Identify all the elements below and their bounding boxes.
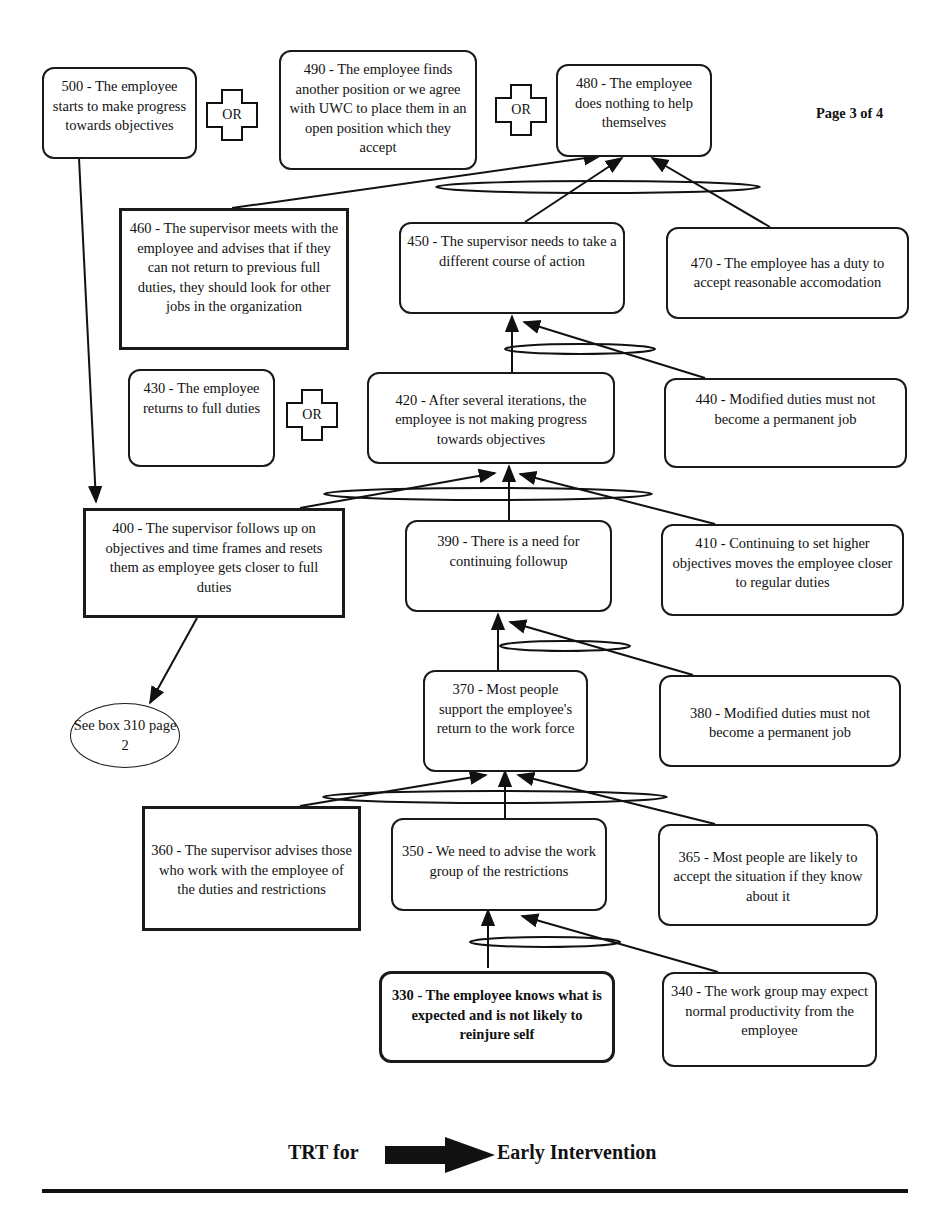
node-440: 440 - Modified duties must not become a …	[664, 378, 907, 468]
node-500: 500 - The employee starts to make progre…	[42, 67, 197, 159]
footer-divider	[42, 1189, 908, 1193]
node-470: 470 - The employee has a duty to accept …	[666, 227, 909, 319]
or-label: OR	[495, 84, 547, 136]
node-480: 480 - The employee does nothing to help …	[556, 64, 712, 157]
node-370: 370 - Most people support the employee's…	[423, 670, 588, 772]
offpage-reference-310[interactable]: See box 310 page 2	[70, 703, 180, 768]
right-arrow-icon	[385, 1137, 497, 1173]
node-365: 365 - Most people are likely to accept t…	[658, 824, 878, 926]
node-340: 340 - The work group may expect normal p…	[662, 972, 877, 1067]
node-430: 430 - The employee returns to full dutie…	[128, 369, 275, 467]
or-label: OR	[206, 89, 258, 141]
node-380: 380 - Modified duties must not become a …	[659, 675, 901, 767]
or-connector-1: OR	[206, 89, 258, 141]
or-connector-3: OR	[286, 389, 338, 441]
node-490: 490 - The employee finds another positio…	[279, 50, 477, 170]
node-420: 420 - After several iterations, the empl…	[367, 372, 615, 464]
node-400: 400 - The supervisor follows up on objec…	[83, 508, 345, 618]
or-connector-2: OR	[495, 84, 547, 136]
node-410: 410 - Continuing to set higher objective…	[661, 524, 904, 616]
node-330: 330 - The employee knows what is expecte…	[379, 971, 615, 1063]
node-350: 350 - We need to advise the work group o…	[391, 818, 607, 911]
node-390: 390 - There is a need for continuing fol…	[405, 520, 612, 612]
node-360: 360 - The supervisor advises those who w…	[142, 806, 361, 931]
or-label: OR	[286, 389, 338, 441]
footer-left-text: TRT for	[288, 1141, 359, 1164]
trt-diagram: Page 3 of 4 500 - The employee starts to…	[0, 0, 943, 1225]
node-460: 460 - The supervisor meets with the empl…	[119, 208, 349, 350]
node-450: 450 - The supervisor needs to take a dif…	[399, 222, 625, 314]
page-number-label: Page 3 of 4	[816, 105, 883, 122]
footer-right-text: Early Intervention	[497, 1141, 656, 1164]
